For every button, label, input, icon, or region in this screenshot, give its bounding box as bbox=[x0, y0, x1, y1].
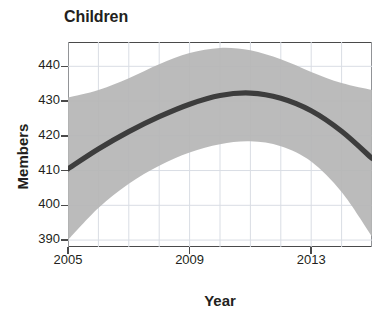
x-axis-tick-mark bbox=[189, 247, 191, 254]
x-axis-tick-label: 2005 bbox=[33, 252, 103, 267]
y-axis-tick-label: 420 bbox=[16, 127, 60, 142]
x-axis-tick-mark bbox=[67, 247, 69, 254]
x-axis-tick-label: 2013 bbox=[276, 252, 346, 267]
y-axis-tick-mark bbox=[61, 66, 68, 68]
y-axis-tick-mark bbox=[61, 205, 68, 207]
y-axis-tick-mark bbox=[61, 170, 68, 172]
y-axis-tick-label: 430 bbox=[16, 92, 60, 107]
x-axis-title: Year bbox=[68, 292, 372, 309]
chart-title: Children bbox=[64, 8, 128, 26]
y-axis-tick-mark bbox=[61, 100, 68, 102]
chart-figure: Children Members Year 390400410420430440… bbox=[0, 0, 391, 321]
x-axis-tick-label: 2009 bbox=[155, 252, 225, 267]
y-axis-tick-label: 410 bbox=[16, 162, 60, 177]
y-axis-tick-mark bbox=[61, 239, 68, 241]
y-axis-tick-label: 400 bbox=[16, 196, 60, 211]
y-axis-tick-label: 390 bbox=[16, 231, 60, 246]
y-axis-tick-label: 440 bbox=[16, 57, 60, 72]
y-axis-tick-mark bbox=[61, 135, 68, 137]
plot-canvas bbox=[68, 42, 372, 247]
plot-area bbox=[68, 42, 372, 247]
x-axis-tick-mark bbox=[310, 247, 312, 254]
